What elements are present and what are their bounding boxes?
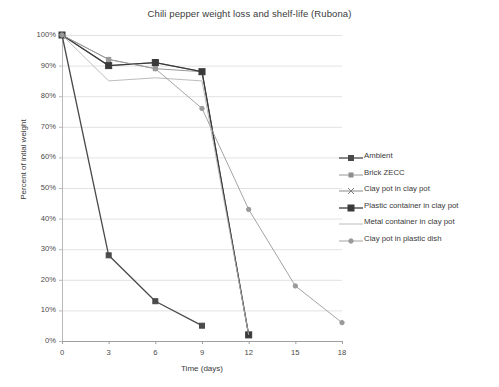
series-metal-container-in-clay-pot bbox=[62, 35, 249, 335]
legend-key-icon bbox=[338, 183, 364, 195]
legend-item-metal-container-in-clay-pot[interactable]: Metal container in clay pot bbox=[338, 214, 496, 231]
data-point-0 bbox=[153, 299, 158, 304]
series-ambient bbox=[60, 33, 205, 329]
legend-key-icon bbox=[338, 216, 364, 228]
data-point-0 bbox=[349, 156, 354, 161]
series-line bbox=[62, 35, 342, 323]
data-point-1 bbox=[349, 173, 353, 177]
legend-item-plastic-container-in-clay-pot[interactable]: Plastic container in clay pot bbox=[338, 198, 496, 215]
series-clay-pot-in-plastic-dish bbox=[60, 33, 344, 325]
legend-label: Ambient bbox=[364, 152, 393, 160]
data-point-5 bbox=[293, 284, 297, 288]
legend-key-icon bbox=[338, 200, 364, 212]
legend-item-clay-pot-in-clay-pot[interactable]: Clay pot in clay pot bbox=[338, 181, 496, 198]
legend-item-clay-pot-in-plastic-dish[interactable]: Clay pot in plastic dish bbox=[338, 231, 496, 248]
legend-label: Plastic container in clay pot bbox=[364, 202, 458, 210]
data-point-0 bbox=[200, 323, 205, 328]
data-point-5 bbox=[200, 106, 204, 110]
legend-label: Clay pot in plastic dish bbox=[364, 235, 442, 243]
data-point-5 bbox=[106, 57, 110, 61]
axes bbox=[59, 35, 343, 344]
legend-item-ambient[interactable]: Ambient bbox=[338, 148, 496, 165]
legend-key-icon bbox=[338, 150, 364, 162]
data-point-0 bbox=[106, 253, 111, 258]
series-line bbox=[62, 35, 249, 335]
data-point-3 bbox=[152, 60, 158, 66]
data-point-5 bbox=[60, 33, 64, 37]
data-point-3 bbox=[199, 69, 205, 75]
legend-key-icon bbox=[338, 167, 364, 179]
series-line bbox=[62, 35, 202, 326]
data-point-5 bbox=[349, 239, 353, 243]
chart-container: Chili pepper weight loss and shelf-life … bbox=[0, 0, 499, 387]
data-point-5 bbox=[340, 320, 344, 324]
data-point-3 bbox=[348, 205, 354, 211]
legend-item-brick-zecc[interactable]: Brick ZECC bbox=[338, 165, 496, 182]
legend-label: Clay pot in clay pot bbox=[364, 185, 430, 193]
data-point-3 bbox=[106, 63, 112, 69]
legend-key-icon bbox=[338, 233, 364, 245]
data-point-5 bbox=[246, 207, 250, 211]
chart-legend: AmbientBrick ZECCClay pot in clay potPla… bbox=[338, 148, 496, 247]
data-point-5 bbox=[153, 66, 157, 70]
legend-label: Brick ZECC bbox=[364, 169, 405, 177]
legend-label: Metal container in clay pot bbox=[364, 218, 455, 226]
